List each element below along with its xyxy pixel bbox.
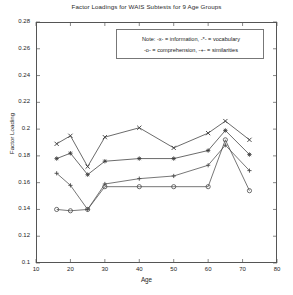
x-tick-label: 40 (127, 266, 151, 272)
data-point-x (172, 146, 176, 150)
data-point-* (206, 148, 210, 152)
y-tick-label: 0.18 (0, 152, 30, 158)
y-tick-label: 0.1 (0, 259, 30, 265)
series-information (55, 119, 252, 169)
chart-figure: Factor Loadings for WAIS Subtests for 9 … (0, 0, 293, 295)
data-point-* (54, 156, 58, 160)
data-point-x (247, 138, 251, 142)
data-point-* (172, 156, 176, 160)
data-point-x (68, 134, 72, 138)
y-tick-label: 0.22 (0, 98, 30, 104)
legend-line-2: -o- = comprehension, -+- = similarities (117, 47, 265, 53)
x-tick-label: 60 (196, 266, 220, 272)
y-tick-label: 0.28 (0, 18, 30, 24)
data-point-* (103, 159, 107, 163)
x-tick-label: 70 (231, 266, 255, 272)
legend-line-1: Note: -x- = information, -*- = vocabular… (117, 36, 265, 42)
y-tick-label: 0.14 (0, 205, 30, 211)
series-similarities (55, 143, 252, 211)
data-point-x (86, 165, 90, 169)
x-tick-label: 30 (93, 266, 117, 272)
y-tick-label: 0.2 (0, 125, 30, 131)
x-tick-label: 20 (58, 266, 82, 272)
data-point-x (206, 131, 210, 135)
x-tick-label: 80 (265, 266, 289, 272)
data-point-x (223, 119, 227, 123)
data-point-* (137, 156, 141, 160)
data-series-layer (54, 119, 251, 213)
data-point-* (85, 172, 89, 176)
data-point-* (223, 128, 227, 132)
data-point-x (137, 126, 141, 130)
data-point-+ (137, 177, 141, 181)
data-point-x (103, 135, 107, 139)
y-axis-title: Factor Loading (8, 99, 15, 169)
y-tick-label: 0.24 (0, 72, 30, 78)
data-point-* (247, 152, 251, 156)
data-point-x (55, 142, 59, 146)
data-point-+ (172, 174, 176, 178)
x-tick-label: 50 (162, 266, 186, 272)
y-tick-label: 0.12 (0, 232, 30, 238)
y-tick-label: 0.26 (0, 45, 30, 51)
y-tick-label: 0.16 (0, 179, 30, 185)
x-axis-title: Age (0, 276, 293, 283)
x-tick-label: 10 (24, 266, 48, 272)
legend-box: Note: -x- = information, -*- = vocabular… (116, 29, 264, 59)
data-point-* (68, 151, 72, 155)
